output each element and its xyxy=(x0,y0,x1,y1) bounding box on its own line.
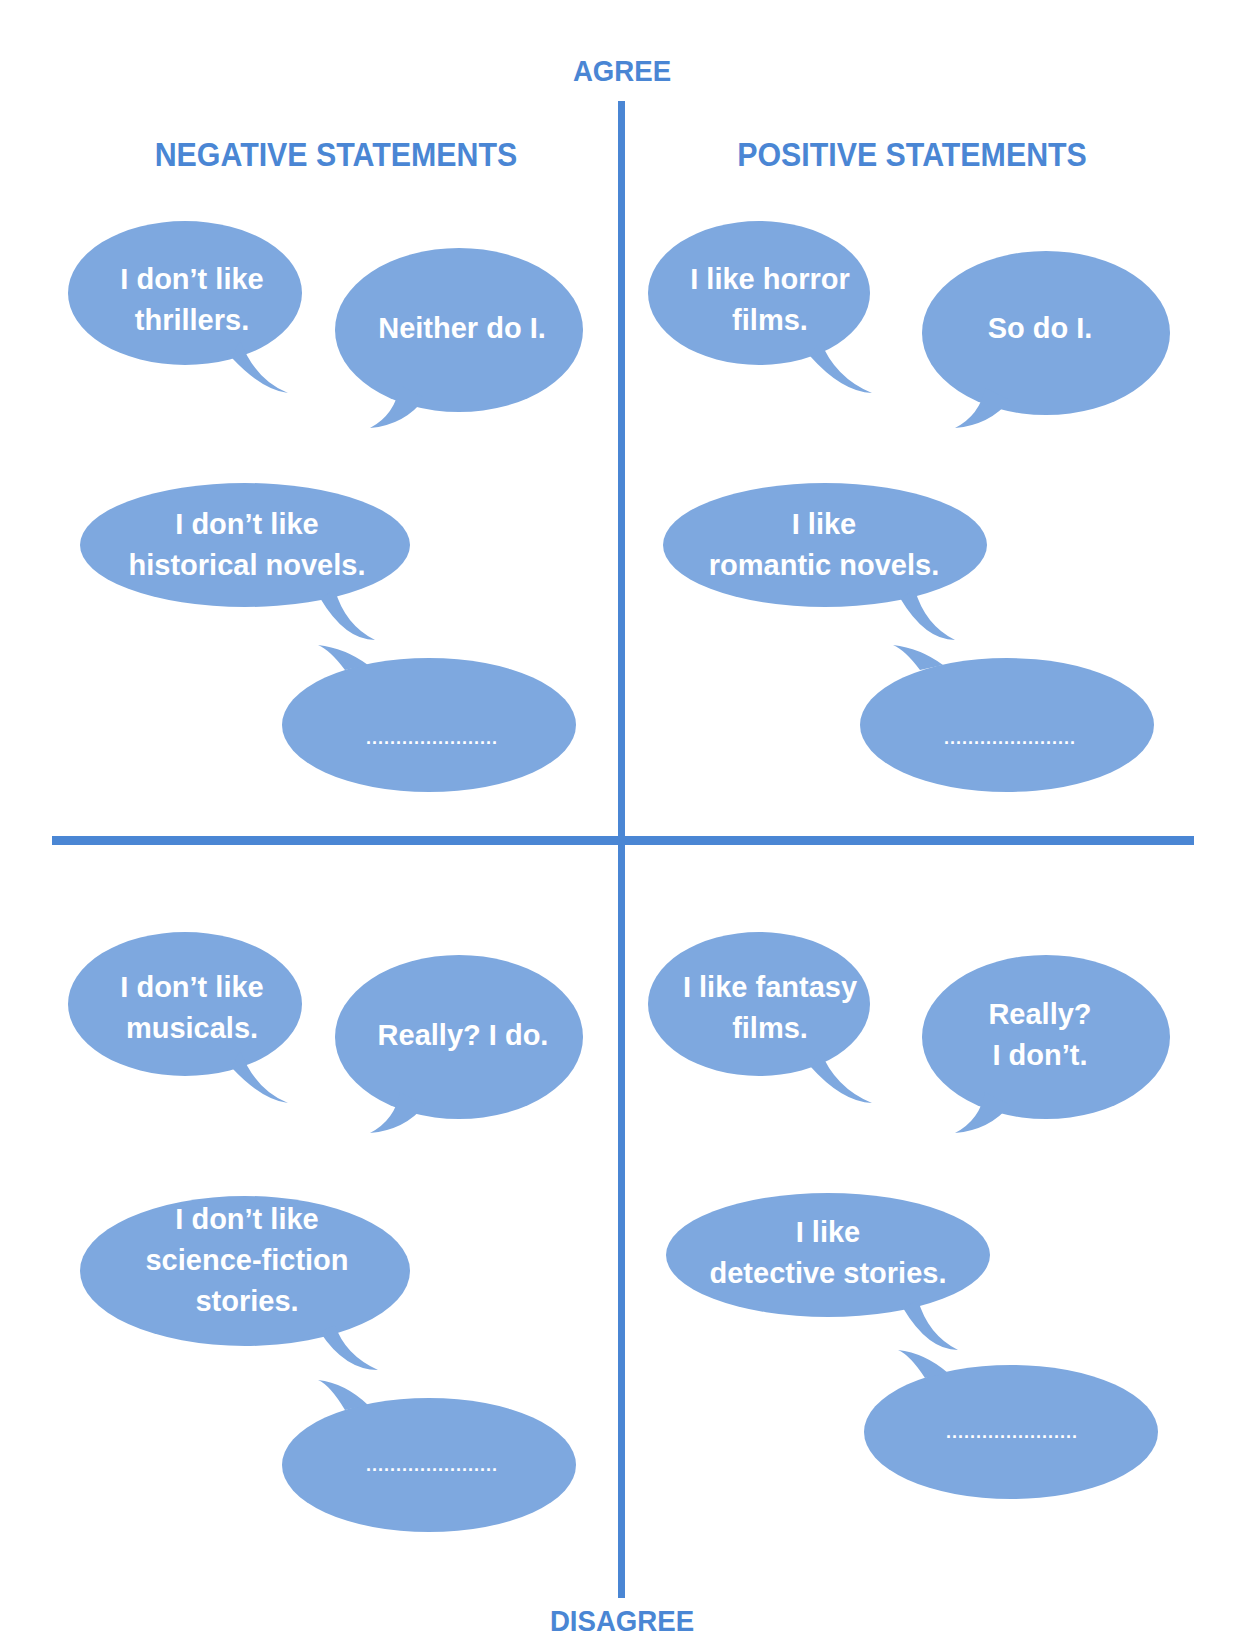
bubble-response-really-i-dont: Really? I don’t. xyxy=(988,994,1091,1076)
answer-blank[interactable]: ...................... xyxy=(944,728,1076,749)
bubble-line: detective stories. xyxy=(710,1253,947,1294)
answer-blank[interactable]: ...................... xyxy=(366,1455,498,1476)
bubble-line: I don’t. xyxy=(988,1035,1091,1076)
bubble-statement-detective: I like detective stories. xyxy=(710,1212,947,1294)
bubble-line: films. xyxy=(683,1008,857,1049)
bubble-line: I like xyxy=(709,504,939,545)
bubble-line: I like horror xyxy=(690,259,850,300)
bubble-statement-fantasy: I like fantasy films. xyxy=(683,967,857,1049)
bubble-line: romantic novels. xyxy=(709,545,939,586)
speech-bubble-icon xyxy=(860,645,1154,792)
bubble-statement-musicals: I don’t like musicals. xyxy=(120,967,263,1049)
bubble-line: I don’t like xyxy=(129,504,366,545)
bubble-response-so-do-i: So do I. xyxy=(988,308,1093,349)
bubble-line: thrillers. xyxy=(120,300,263,341)
bubble-line: science-fiction xyxy=(145,1240,348,1281)
speech-bubbles-layer xyxy=(0,0,1250,1651)
bubble-response-neither: Neither do I. xyxy=(378,308,546,349)
bubble-statement-thrillers: I don’t like thrillers. xyxy=(120,259,263,341)
bubble-statement-science-fiction: I don’t like science-fiction stories. xyxy=(145,1199,348,1322)
bubble-line: I like xyxy=(710,1212,947,1253)
speech-bubble-icon xyxy=(282,645,576,792)
bubble-line: musicals. xyxy=(120,1008,263,1049)
bubble-line: Really? xyxy=(988,994,1091,1035)
bubble-line: films. xyxy=(690,300,850,341)
bubble-line: So do I. xyxy=(988,308,1093,349)
bubble-statement-horror: I like horror films. xyxy=(690,259,850,341)
bubble-line: Really? I do. xyxy=(378,1015,549,1056)
answer-blank[interactable]: ...................... xyxy=(366,728,498,749)
bubble-line: Neither do I. xyxy=(378,308,546,349)
bubble-line: stories. xyxy=(145,1281,348,1322)
bubble-line: I don’t like xyxy=(120,967,263,1008)
answer-blank[interactable]: ...................... xyxy=(946,1422,1078,1443)
bubble-line: historical novels. xyxy=(129,545,366,586)
bubble-response-really-i-do: Really? I do. xyxy=(378,1015,549,1056)
bubble-line: I don’t like xyxy=(120,259,263,300)
bubble-statement-historical: I don’t like historical novels. xyxy=(129,504,366,586)
bubble-statement-romantic: I like romantic novels. xyxy=(709,504,939,586)
bubble-line: I don’t like xyxy=(145,1199,348,1240)
bubble-line: I like fantasy xyxy=(683,967,857,1008)
